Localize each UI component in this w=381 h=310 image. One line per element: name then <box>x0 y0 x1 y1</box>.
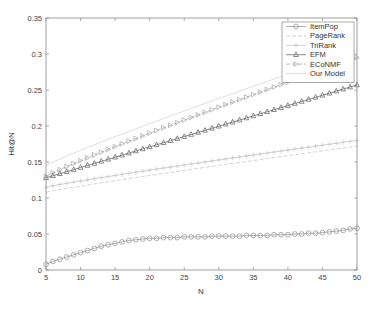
y-tick-label: 0.2 <box>32 122 42 131</box>
x-tick-label: 50 <box>353 273 361 282</box>
y-tick-label: 0.3 <box>32 50 42 59</box>
plot-area <box>44 50 360 266</box>
x-tick-label: 35 <box>249 273 257 282</box>
legend-label: TriRank <box>310 41 336 50</box>
x-tick-label: 45 <box>318 273 326 282</box>
x-tick-label: 30 <box>215 273 223 282</box>
y-axis-label: Hit@N <box>7 132 16 156</box>
x-tick-label: 15 <box>111 273 119 282</box>
legend: ItemPopPageRankTriRankEFMECoNMFOur Model <box>282 22 354 82</box>
legend-label: EFM <box>310 50 326 59</box>
y-tick-label: 0.05 <box>27 230 42 239</box>
y-tick-label: 0.25 <box>27 86 42 95</box>
y-tick-label: 0.35 <box>27 14 42 23</box>
series-itempop <box>44 226 360 267</box>
x-tick-label: 40 <box>284 273 292 282</box>
series-efm <box>44 82 360 179</box>
legend-label: ECoNMF <box>310 60 341 69</box>
y-tick-label: 0.15 <box>27 158 42 167</box>
x-tick-label: 5 <box>44 273 48 282</box>
hit-at-n-line-chart: 510152025303540455000.050.10.150.20.250.… <box>0 0 381 310</box>
legend-label: PageRank <box>310 31 345 40</box>
legend-label: ItemPop <box>310 22 338 31</box>
x-axis-label: N <box>198 287 204 296</box>
x-tick-label: 25 <box>180 273 188 282</box>
legend-label: Our Model <box>310 69 345 78</box>
y-tick-label: 0.1 <box>32 194 42 203</box>
x-tick-label: 10 <box>76 273 84 282</box>
x-tick-label: 20 <box>145 273 153 282</box>
y-tick-label: 0 <box>38 266 42 275</box>
